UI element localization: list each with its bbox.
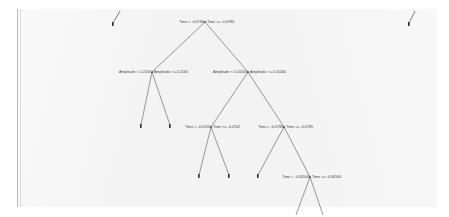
node-marker-n1[interactable] <box>204 21 206 23</box>
leaf-marker-l4[interactable] <box>169 124 171 128</box>
edge-n6-l8 <box>296 177 310 215</box>
split-label-n1-left: Time < -0.0784 <box>179 20 204 24</box>
edge-n2-l4 <box>152 72 170 125</box>
split-label-n4-left: Time < -0.0702 <box>185 125 210 129</box>
edge-n4-l5 <box>199 127 211 175</box>
edge-n5-n6 <box>284 127 310 177</box>
split-label-n2-right: Amplitude >= 0.2165 <box>154 70 188 74</box>
edge-n2-l3 <box>141 72 152 125</box>
split-label-n3-right: Amplitude >= 0.10200 <box>250 70 286 74</box>
edge-n4-l6 <box>211 127 229 175</box>
edge-n5-l7 <box>258 127 284 175</box>
split-label-n2-left: Amplitude < 0.2165 <box>119 70 151 74</box>
tree-leaf-nodes <box>112 11 415 178</box>
tree-edges <box>141 22 323 215</box>
node-marker-n3[interactable] <box>247 71 249 73</box>
edge-n6-l9 <box>310 177 323 215</box>
leaf-stem-l2 <box>409 11 415 23</box>
edge-n3-n5 <box>248 72 284 127</box>
leaf-marker-l7[interactable] <box>257 174 259 178</box>
node-marker-n2[interactable] <box>151 71 153 73</box>
split-label-n3-left: Amplitude < 0.10200 <box>213 70 247 74</box>
leaf-marker-l1[interactable] <box>112 22 114 26</box>
leaf-marker-l6[interactable] <box>228 174 230 178</box>
leaf-marker-l3[interactable] <box>140 124 142 128</box>
split-label-n4-right: Time >= -0.0702 <box>213 125 240 129</box>
edge-n1-n2 <box>152 22 205 72</box>
node-marker-n4[interactable] <box>210 126 212 128</box>
split-label-n6-right: Time >= -0.06500 <box>312 175 341 179</box>
edge-n1-n3 <box>205 22 248 72</box>
node-marker-n6[interactable] <box>309 176 311 178</box>
tree-internal-nodes <box>151 21 311 178</box>
split-label-n5-right: Time >= -0.0785 <box>286 125 313 129</box>
split-label-n6-left: Time < -0.06500 <box>282 175 309 179</box>
leaf-stem-l1 <box>113 11 120 23</box>
leaf-marker-l2[interactable] <box>408 22 410 26</box>
leaf-marker-l5[interactable] <box>198 174 200 178</box>
split-label-n5-left: Time < -0.0785 <box>258 125 283 129</box>
edge-n3-n4 <box>211 72 248 127</box>
split-label-n1-right: Time >= -0.0784 <box>207 20 234 24</box>
tree-graph <box>0 0 449 217</box>
decision-tree-figure: Time < -0.0784 Time >= -0.0784 Amplitude… <box>0 0 449 217</box>
node-marker-n5[interactable] <box>283 126 285 128</box>
